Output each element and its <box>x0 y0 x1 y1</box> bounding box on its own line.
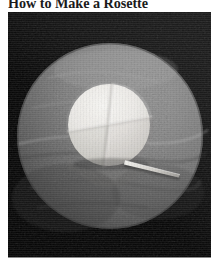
article-page: How to Make a Rosette <box>0 0 221 263</box>
rosette-photo <box>8 12 211 258</box>
page-title: How to Make a Rosette <box>8 0 213 12</box>
photo-image <box>8 12 211 258</box>
photo-bottom-edge <box>8 257 211 258</box>
